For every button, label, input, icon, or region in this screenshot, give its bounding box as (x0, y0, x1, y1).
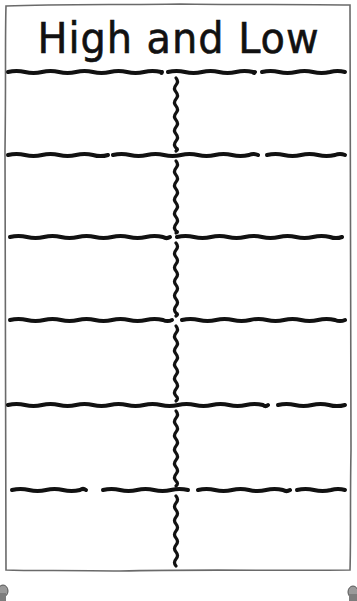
cell-right (182, 242, 345, 315)
row-divider (267, 154, 345, 156)
column-divider (175, 243, 178, 316)
column-divider (175, 496, 178, 566)
column-divider (175, 326, 178, 401)
row-divider (297, 489, 345, 491)
row-divider (8, 71, 162, 73)
column-divider (175, 411, 178, 486)
row-divider (168, 71, 255, 73)
row-divider (8, 154, 108, 156)
row-divider (103, 489, 188, 491)
row-divider (113, 154, 258, 156)
cell-left (10, 325, 171, 400)
row-divider (262, 71, 345, 73)
cell-right (182, 410, 345, 485)
cell-left (10, 77, 171, 150)
cell-left (10, 495, 171, 565)
column-divider (175, 161, 178, 233)
row-divider (10, 236, 170, 238)
row-divider (278, 404, 345, 406)
row-divider (10, 319, 172, 321)
row-divider (8, 404, 268, 406)
pin-icon-left (0, 585, 8, 601)
pin-icon-right (348, 586, 357, 601)
cell-right (182, 495, 345, 565)
cell-right (182, 160, 345, 232)
cell-right (182, 325, 345, 400)
worksheet: High and Low (0, 0, 357, 601)
worksheet-title: High and Low (9, 14, 348, 64)
column-divider (175, 78, 178, 151)
row-divider (182, 319, 345, 321)
cell-right (182, 77, 345, 150)
row-divider (12, 489, 86, 491)
cell-left (10, 242, 171, 315)
cell-left (10, 160, 171, 232)
row-divider (198, 489, 290, 491)
cell-left (10, 410, 171, 485)
row-divider (177, 236, 342, 238)
